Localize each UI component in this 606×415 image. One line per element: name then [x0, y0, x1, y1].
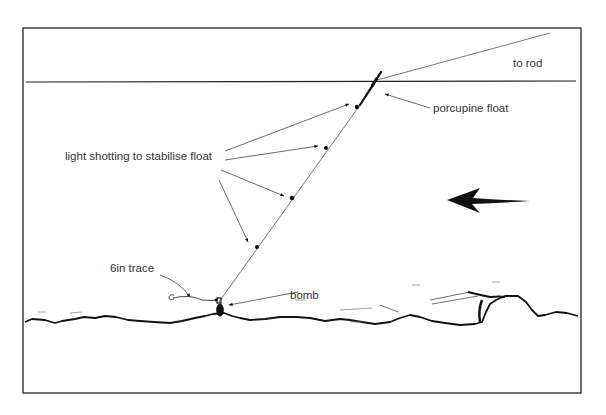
trace-and-hook-icon [169, 295, 218, 302]
current-direction-arrow-icon [447, 188, 530, 213]
weed-snag [380, 292, 505, 322]
water-surface-line [26, 81, 576, 82]
label-bomb: bomb [290, 289, 319, 301]
shotting-pointer-arrows [219, 104, 349, 242]
label-light-shotting: light shotting to stabilise float [65, 150, 213, 162]
trace-pointer [160, 275, 190, 297]
split-shot-icons [255, 105, 359, 249]
main-line [219, 84, 375, 302]
label-to-rod: to rod [513, 57, 542, 69]
diagram-frame [23, 28, 581, 393]
porcupine-float-icon [360, 72, 381, 105]
label-porcupine-float: porcupine float [433, 102, 509, 114]
rig-diagram: to rod porcupine float light shotting to… [0, 0, 606, 415]
label-6in-trace: 6in trace [110, 262, 154, 274]
porcupine-float-pointer [385, 94, 430, 108]
bomb-pointer [229, 292, 298, 305]
